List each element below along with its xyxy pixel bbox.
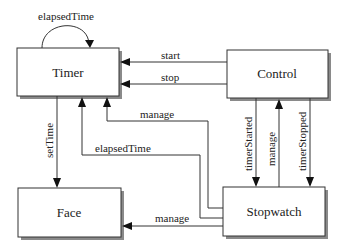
label-timerStopped: timerStopped — [296, 111, 308, 171]
edge-timer-self-loop — [42, 26, 89, 48]
node-stopwatch[interactable]: Stopwatch — [223, 187, 325, 236]
label-manage-control: manage — [265, 132, 277, 166]
node-control[interactable]: Control — [227, 50, 328, 98]
label-manage-timer: manage — [140, 108, 174, 120]
label-manage-face: manage — [155, 212, 189, 224]
node-timer-label: Timer — [52, 65, 84, 80]
arrowhead-icon — [306, 177, 314, 187]
label-timerStarted: timerStarted — [242, 116, 254, 171]
label-stop: stop — [161, 71, 180, 83]
node-stopwatch-label: Stopwatch — [247, 204, 302, 219]
label-elapsedTime-self: elapsedTime — [38, 10, 94, 22]
node-face[interactable]: Face — [18, 188, 121, 237]
node-face-label: Face — [57, 205, 82, 220]
diagram-canvas: Timer Control Face Stopwatch elapsedTime… — [0, 0, 341, 250]
node-control-label: Control — [257, 66, 297, 81]
arrowhead-icon — [252, 177, 260, 187]
arrowhead-icon — [85, 40, 94, 48]
label-elapsedTime-stopwatch: elapsedTime — [95, 142, 151, 154]
label-setTime: setTime — [43, 123, 55, 158]
node-timer[interactable]: Timer — [17, 48, 119, 96]
arrowhead-icon — [53, 178, 61, 188]
label-start: start — [161, 49, 180, 61]
